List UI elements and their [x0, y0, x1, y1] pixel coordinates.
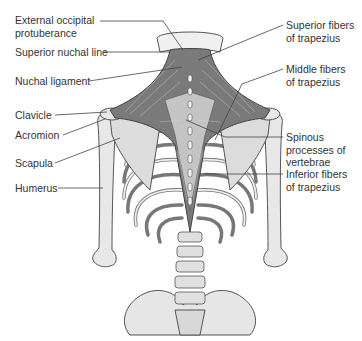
label-spinous-processes-of-vertebrae: Spinous processes of vertebrae: [286, 131, 346, 169]
label-acromion: Acromion: [15, 129, 59, 142]
label-scapula: Scapula: [15, 157, 53, 170]
leader-clavicle: [55, 112, 107, 115]
label-humerus: Humerus: [15, 182, 58, 195]
label-clavicle: Clavicle: [15, 109, 52, 122]
label-middle-fibers-of-trapezius: Middle fibers of trapezius: [286, 63, 346, 88]
label-superior-fibers-of-trapezius: Superior fibers of trapezius: [286, 19, 354, 44]
label-nuchal-ligament: Nuchal ligament: [15, 75, 90, 88]
label-external-occipital-protuberance: External occipital protuberance: [15, 14, 94, 39]
lumbar-spine: [175, 232, 205, 304]
label-superior-nuchal-line: Superior nuchal line: [15, 46, 108, 59]
label-inferior-fibers-of-trapezius: Inferior fibers of trapezius: [286, 168, 347, 193]
